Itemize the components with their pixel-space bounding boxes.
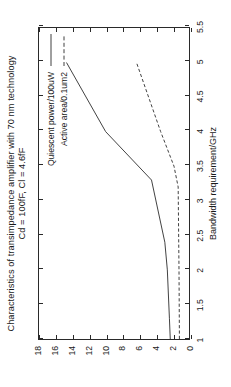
x-axis-tick [39,268,43,269]
x-tick-label: 2 [195,268,205,273]
y-axis-tick [90,28,91,32]
y-axis-tick [123,28,124,32]
chart-legend: Quiescent power/100uW Active area/0.1um2 [44,33,70,191]
x-axis-tick [185,164,189,165]
y-axis-tick [107,335,108,339]
legend-item-active-area: Active area/0.1um2 [57,33,70,191]
y-axis-tick [107,28,108,32]
x-axis-tick [185,25,189,26]
legend-line-solid-icon [47,33,55,67]
x-axis-tick [39,60,43,61]
series-group [67,63,180,339]
x-tick-label: 1.5 [195,299,205,311]
chart-subtitle: Cd = 100fF, Cl = 4.6fF [17,0,28,387]
y-tick-label: 0 [185,346,195,368]
y-tick-label: 14 [67,346,77,368]
series-line [67,63,171,339]
x-tick-label: 1 [195,338,205,343]
y-axis-tick [191,28,192,32]
x-axis-tick [185,199,189,200]
legend-label: Quiescent power/100uW [46,72,56,166]
y-axis-tick [56,335,57,339]
y-tick-label: 12 [84,346,94,368]
y-tick-label: 10 [101,346,111,368]
y-axis-tick [90,335,91,339]
x-tick-label: 3.5 [195,160,205,172]
x-axis-tick [39,129,43,130]
x-axis-tick [185,95,189,96]
y-tick-label: 18 [33,346,43,368]
legend-item-quiescent-power: Quiescent power/100uW [44,33,57,191]
rotated-figure-container: Characteristics of transimpedance amplif… [0,0,231,387]
x-tick-label: 5.5 [195,21,205,33]
x-axis-tick [39,234,43,235]
y-axis-tick [39,335,40,339]
y-tick-label: 6 [134,346,144,368]
x-axis-tick [185,338,189,339]
x-tick-label: 4 [195,129,205,134]
y-tick-label: 8 [117,346,127,368]
x-tick-label: 3 [195,199,205,204]
y-axis-tick [140,335,141,339]
x-axis-title: Bandwidth requirement/GHz [208,27,218,340]
series-line [137,63,180,339]
x-axis-tick [185,60,189,61]
x-axis-tick [185,234,189,235]
x-tick-label: 5 [195,59,205,64]
y-axis-tick [157,28,158,32]
y-axis-tick [73,335,74,339]
x-tick-label: 2.5 [195,230,205,242]
y-tick-label: 16 [50,346,60,368]
y-axis-tick [123,335,124,339]
y-axis-tick [73,28,74,32]
y-axis-tick [56,28,57,32]
x-axis-tick [185,303,189,304]
y-axis-tick [174,28,175,32]
legend-label: Active area/0.1um2 [59,72,69,146]
y-axis-tick [174,335,175,339]
chart-figure: Characteristics of transimpedance amplif… [0,0,231,387]
legend-line-dashed-icon [60,33,68,67]
x-axis-tick [39,95,43,96]
y-tick-label: 2 [168,346,178,368]
y-axis-tick [140,28,141,32]
x-axis-tick [39,25,43,26]
y-tick-label: 4 [151,346,161,368]
y-axis-tick [191,335,192,339]
x-tick-label: 4.5 [195,91,205,103]
x-axis-tick [185,129,189,130]
y-axis-tick [39,28,40,32]
x-axis-tick [39,303,43,304]
chart-title-block: Characteristics of transimpedance amplif… [6,0,28,387]
x-axis-tick [185,268,189,269]
page-title: Characteristics of transimpedance amplif… [6,0,17,387]
y-axis-tick [157,335,158,339]
x-axis-tick [39,199,43,200]
x-axis-tick [39,164,43,165]
